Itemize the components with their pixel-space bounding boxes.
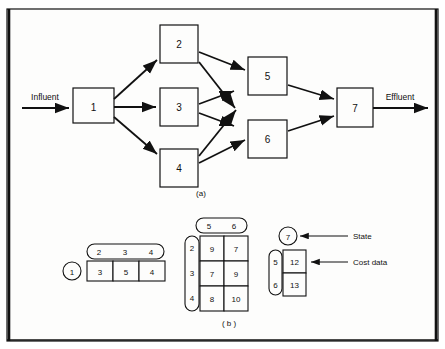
table1-col-header-0: 2 <box>97 248 102 257</box>
panel-b-caption: ( b ) <box>222 319 237 328</box>
table2-cell-2-0: 8 <box>210 295 215 304</box>
table2-cell-1-1: 9 <box>234 270 239 279</box>
table1-cell-2: 4 <box>150 268 155 277</box>
table2-cells: 9 7 7 9 8 10 <box>200 236 248 311</box>
table1-cell-0: 3 <box>98 268 103 277</box>
table2-row-header-0: 2 <box>190 244 195 253</box>
table3-row-header-0: 5 <box>273 258 278 267</box>
table2-col-header-1: 6 <box>232 222 237 231</box>
figure-svg: 1 2 3 4 5 6 7 <box>0 0 445 349</box>
node-3-label: 3 <box>176 102 182 113</box>
state-annotation-label: State <box>353 232 372 241</box>
table3-state-label: 7 <box>286 233 291 242</box>
node-6-label: 6 <box>265 134 271 145</box>
node-5-label: 5 <box>265 71 271 82</box>
table2-header-capsule <box>196 218 247 233</box>
table1-cell-1: 5 <box>124 268 129 277</box>
node-6[interactable]: 6 <box>248 120 287 158</box>
table2-col-header-0: 5 <box>207 222 212 231</box>
figure-container: 1 2 3 4 5 6 7 <box>0 0 445 349</box>
table2-cell-1-0: 7 <box>210 270 215 279</box>
table1-state-label: 1 <box>70 268 75 277</box>
table3-cell-1: 13 <box>290 281 299 290</box>
table3-cell-0: 12 <box>290 258 299 267</box>
panel-a-caption: (a) <box>196 189 206 198</box>
node-2[interactable]: 2 <box>160 25 198 63</box>
node-3[interactable]: 3 <box>160 88 198 126</box>
table2-cell-0-1: 7 <box>234 245 239 254</box>
table1-col-header-2: 4 <box>149 248 154 257</box>
node-2-label: 2 <box>176 39 182 50</box>
table3-row-header-1: 6 <box>273 281 278 290</box>
table3-cells: 12 13 <box>283 250 306 296</box>
node-1-label: 1 <box>91 102 97 113</box>
table2-cell-2-1: 10 <box>232 295 241 304</box>
node-7-label: 7 <box>352 103 358 114</box>
node-7[interactable]: 7 <box>337 88 373 127</box>
node-1[interactable]: 1 <box>73 88 114 123</box>
node-4-label: 4 <box>176 163 182 174</box>
effluent-label: Effluent <box>386 92 415 102</box>
table1-col-header-1: 3 <box>123 248 128 257</box>
node-4[interactable]: 4 <box>160 149 198 187</box>
table2-cell-0-0: 9 <box>210 245 215 254</box>
table2-row-header-1: 3 <box>190 269 195 278</box>
cost-annotation-label: Cost data <box>353 258 388 267</box>
table1-cells: 3 5 4 <box>87 261 165 281</box>
node-5[interactable]: 5 <box>248 57 287 95</box>
influent-label: Influent <box>31 92 60 102</box>
table2-row-header-2: 4 <box>190 294 195 303</box>
